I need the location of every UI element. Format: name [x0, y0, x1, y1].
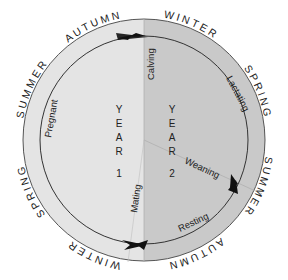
phase-calving-label: Calving	[145, 48, 156, 80]
svg-text:E: E	[169, 118, 176, 129]
svg-text:Y: Y	[169, 104, 176, 115]
svg-text:2: 2	[169, 168, 175, 179]
cattle-cycle-diagram: AUTUMN SUMMER WINTER SPRING SUMMER AUTUM…	[0, 0, 288, 280]
svg-text:Y: Y	[116, 104, 123, 115]
svg-text:A: A	[169, 132, 176, 143]
svg-text:R: R	[115, 146, 122, 157]
svg-text:R: R	[168, 146, 175, 157]
svg-text:A: A	[116, 132, 123, 143]
svg-text:E: E	[116, 118, 123, 129]
svg-text:1: 1	[116, 168, 122, 179]
